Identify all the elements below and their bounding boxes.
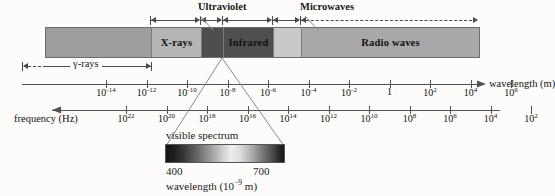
frequency-tick-label-8: 106: [443, 112, 457, 124]
frequency-tick-base-1: 10: [158, 113, 168, 124]
frequency-tick-exponent-5: 12: [330, 112, 337, 120]
frequency-tick-exponent-8: 6: [453, 112, 457, 120]
frequency-tick-base-2: 10: [199, 113, 209, 124]
frequency-tick-label-0: 1022: [118, 112, 135, 124]
frequency-tick-exponent-7: 8: [413, 112, 417, 120]
frequency-tick-label-2: 1018: [199, 112, 216, 124]
frequency-tick-label-3: 1016: [239, 112, 256, 124]
frequency-tick-exponent-0: 22: [128, 112, 135, 120]
visible-caption-exponent: −9: [234, 178, 242, 187]
visible-spectrum-bar: [165, 144, 285, 163]
frequency-tick-label-9: 104: [484, 112, 498, 124]
frequency-tick-base-5: 10: [320, 113, 330, 124]
visible-spectrum-caption: wavelength (10−9 m): [166, 178, 257, 192]
frequency-tick-base-0: 10: [118, 113, 128, 124]
frequency-axis-caption: frequency (Hz): [14, 113, 78, 124]
visible-caption-base: wavelength (10: [166, 180, 234, 192]
frequency-axis-line: [52, 110, 500, 111]
frequency-tick-exponent-1: 20: [168, 112, 175, 120]
frequency-tick-label-4: 1014: [280, 112, 297, 124]
frequency-tick-exponent-9: 4: [494, 112, 498, 120]
visible-spectrum-max-label: 700: [253, 165, 270, 177]
visible-spectrum-min-label: 400: [166, 165, 183, 177]
frequency-tick-exponent-2: 18: [209, 112, 216, 120]
visible-caption-tail: m): [242, 180, 257, 192]
frequency-tick-label-10: 102: [524, 112, 538, 124]
frequency-tick-exponent-6: 10: [371, 112, 378, 120]
frequency-tick-base-9: 10: [484, 113, 494, 124]
frequency-tick-exponent-4: 14: [290, 112, 297, 120]
frequency-tick-base-6: 10: [361, 113, 371, 124]
frequency-tick-label-7: 108: [403, 112, 417, 124]
frequency-tick-base-3: 10: [239, 113, 249, 124]
frequency-tick-base-10: 10: [524, 113, 534, 124]
frequency-tick-exponent-10: 2: [534, 112, 538, 120]
frequency-tick-base-7: 10: [403, 113, 413, 124]
frequency-tick-label-1: 1020: [158, 112, 175, 124]
frequency-tick-exponent-3: 16: [249, 112, 256, 120]
visible-spectrum-label: visible spectrum: [166, 129, 238, 141]
frequency-tick-label-5: 1012: [320, 112, 337, 124]
frequency-tick-base-4: 10: [280, 113, 290, 124]
frequency-tick-label-6: 1010: [361, 112, 378, 124]
frequency-tick-base-8: 10: [443, 113, 453, 124]
